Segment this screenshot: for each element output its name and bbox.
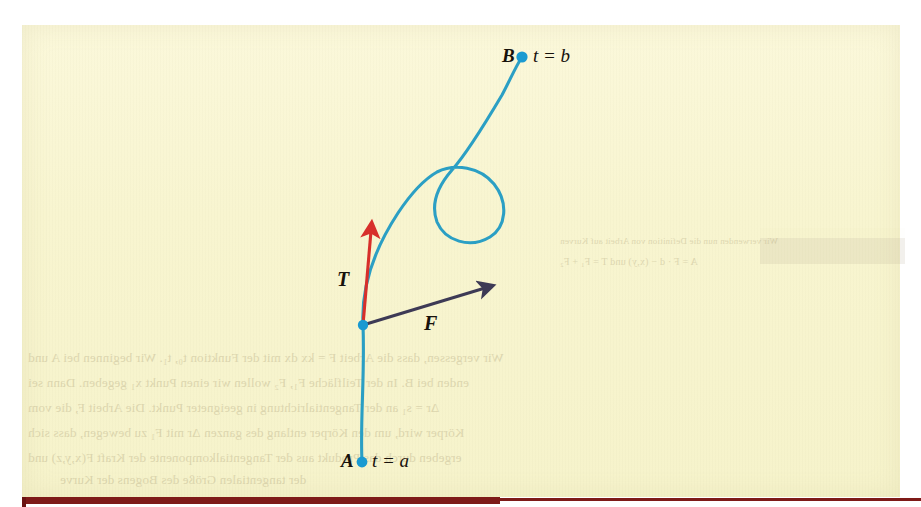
curve-path <box>362 57 522 462</box>
point-a-dot <box>357 457 368 468</box>
point-a-label: A <box>341 450 354 472</box>
point-b-parameter-label: t = b <box>533 45 570 67</box>
tangent-vector-arrow <box>363 231 371 325</box>
page-bottom-rule-thin <box>500 498 921 501</box>
point-b-label: B <box>502 45 515 67</box>
figure-page: Wir verwenden nun die Definition von Arb… <box>0 0 921 507</box>
force-vector-label: F <box>424 312 437 335</box>
point-a-parameter-label: t = a <box>372 450 409 472</box>
page-bottom-rule-cap <box>22 497 26 507</box>
curve-figure <box>0 0 921 507</box>
tangent-vector-label: T <box>337 268 349 291</box>
point-b-dot <box>516 51 527 62</box>
sample-point-dot <box>358 320 368 330</box>
page-bottom-rule-thick <box>22 497 500 504</box>
